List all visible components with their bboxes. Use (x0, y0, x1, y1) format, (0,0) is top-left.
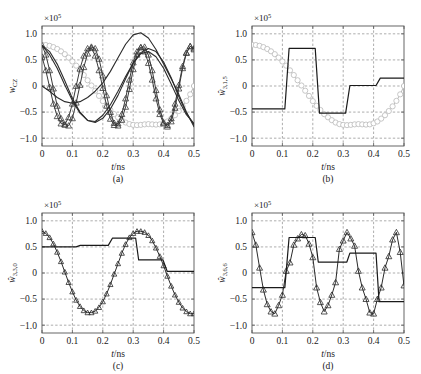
x-tick-label: 0 (40, 336, 45, 346)
y-tick-label: 0 (242, 268, 247, 278)
y-tick-label: −1.0 (20, 321, 37, 331)
series-marker-circle (382, 113, 387, 118)
y-tick-label: 0.5 (235, 55, 247, 65)
x-tick-label: 0 (40, 149, 45, 159)
svg-text:wCZ: wCZ (7, 79, 18, 94)
y-axis-exponent: ×105 (254, 12, 271, 24)
y-tick-label: 1.0 (235, 216, 247, 226)
y-axis-label: ŵ3,1,5 (217, 76, 228, 95)
x-tick-label: 0.4 (158, 336, 170, 346)
x-tick-label: 0.5 (188, 336, 200, 346)
series-marker-circle (401, 83, 406, 88)
x-tick-label: 0.2 (307, 336, 319, 346)
y-tick-label: 1.0 (25, 216, 37, 226)
y-tick-label: 1.0 (25, 29, 37, 39)
x-tick-label: 0.4 (368, 336, 380, 346)
series-marker-circle (89, 83, 94, 88)
y-tick-label: −0.5 (20, 107, 37, 117)
series-marker-circle (280, 59, 285, 64)
y-tick-label: −1.0 (20, 134, 37, 144)
series-marker-circle (291, 72, 296, 77)
panel-d: 00.10.20.30.40.51.00.50−0.5−1.0×105t/nsw… (210, 187, 421, 374)
y-tick-label: 0.5 (25, 55, 37, 65)
svg-text:ŵ3,1,5: ŵ3,1,5 (217, 76, 228, 95)
series-marker-circle (306, 93, 311, 98)
series-marker-circle (96, 93, 101, 98)
panel-caption: (b) (322, 174, 333, 185)
y-axis-exponent: ×105 (254, 199, 271, 211)
series-marker-circle (394, 98, 399, 103)
series-marker-circle (398, 92, 403, 97)
x-axis-label: t/ns (111, 349, 125, 359)
panel-c: 00.10.20.30.40.51.00.50−0.5−1.0×105t/nsw… (0, 187, 211, 374)
x-tick-label: 0 (250, 149, 255, 159)
x-tick-label: 0.5 (188, 149, 200, 159)
series-marker-circle (191, 83, 196, 88)
y-tick-label: 0 (32, 268, 37, 278)
panel-caption: (d) (322, 361, 333, 372)
series-marker-circle (184, 98, 189, 103)
x-axis-label: t/ns (111, 162, 125, 172)
panel-a: 00.10.20.30.40.51.00.50−0.5−1.0×105t/nsw… (0, 0, 211, 187)
y-tick-label: −1.0 (230, 134, 247, 144)
x-tick-label: 0.3 (127, 149, 139, 159)
series-marker-circle (303, 88, 308, 93)
y-tick-label: 1.0 (235, 29, 247, 39)
x-tick-label: 0.5 (398, 336, 410, 346)
x-tick-label: 0.2 (97, 336, 109, 346)
x-tick-label: 0.4 (368, 149, 380, 159)
x-tick-label: 0.2 (307, 149, 319, 159)
figure-container: 00.10.20.30.40.51.00.50−0.5−1.0×105t/nsw… (0, 0, 421, 374)
y-tick-label: −0.5 (20, 294, 37, 304)
y-tick-label: 0 (32, 81, 37, 91)
panel-caption: (c) (113, 361, 124, 372)
y-tick-label: −0.5 (230, 294, 247, 304)
x-tick-label: 0.3 (337, 336, 349, 346)
series-marker-circle (310, 99, 315, 104)
x-tick-label: 0.1 (66, 336, 78, 346)
x-axis-label: t/ns (321, 349, 335, 359)
x-tick-label: 0.3 (127, 336, 139, 346)
y-axis-label: wCZ (7, 79, 18, 94)
x-axis-label: t/ns (321, 162, 335, 172)
series-marker-circle (70, 59, 75, 64)
x-tick-label: 0.1 (276, 336, 288, 346)
series-marker-circle (85, 78, 90, 83)
y-axis-label: ŵ3,3,0 (7, 263, 18, 282)
panel-b: 00.10.20.30.40.51.00.50−0.5−1.0×105t/nsw… (210, 0, 421, 187)
series-marker-circle (299, 83, 304, 88)
series-marker-circle (295, 78, 300, 83)
y-axis-label: ŵ3,6,6 (217, 263, 228, 283)
x-tick-label: 0.4 (158, 149, 170, 159)
series-marker-circle (74, 63, 79, 68)
x-tick-label: 0.1 (276, 149, 288, 159)
y-tick-label: 0.5 (235, 242, 247, 252)
series-marker-circle (386, 108, 391, 113)
y-tick-label: 0 (242, 81, 247, 91)
x-tick-label: 0.3 (337, 149, 349, 159)
series-marker-circle (100, 99, 105, 104)
x-tick-label: 0 (250, 336, 255, 346)
panel-caption: (a) (113, 174, 124, 185)
x-tick-label: 0.5 (398, 149, 410, 159)
y-axis-exponent: ×105 (44, 12, 61, 24)
svg-text:ŵ3,3,0: ŵ3,3,0 (7, 263, 18, 282)
y-tick-label: 0.5 (25, 242, 37, 252)
svg-text:ŵ3,6,6: ŵ3,6,6 (217, 263, 228, 283)
y-tick-label: −0.5 (230, 107, 247, 117)
x-tick-label: 0.2 (97, 149, 109, 159)
x-tick-label: 0.1 (66, 149, 78, 159)
series-marker-circle (390, 104, 395, 109)
y-axis-exponent: ×105 (44, 199, 61, 211)
y-tick-label: −1.0 (230, 321, 247, 331)
series-marker-circle (188, 92, 193, 97)
